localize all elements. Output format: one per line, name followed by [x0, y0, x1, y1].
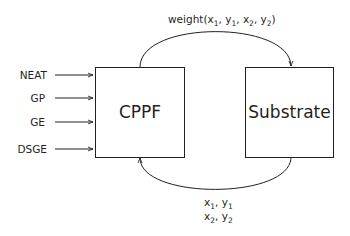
edge-cppf-to-substrate — [140, 32, 291, 67]
node-cppf: CPPF — [96, 68, 185, 158]
input-ge: GE — [30, 116, 93, 128]
input-label-dsge: DSGE — [17, 143, 47, 155]
cppf-label: CPPF — [119, 102, 161, 122]
substrate-label: Substrate — [248, 102, 330, 122]
input-label-gp: GP — [31, 92, 45, 104]
input-neat: NEAT — [20, 69, 93, 81]
edge-top-label: weight(x1, y1, x2, y2) — [168, 13, 276, 28]
edge-substrate-to-cppf — [140, 157, 291, 189]
edge-bottom-label-line1: x1, y1 — [204, 196, 233, 211]
input-dsge: DSGE — [17, 143, 93, 155]
input-label-neat: NEAT — [20, 69, 48, 81]
node-substrate: Substrate — [246, 68, 334, 158]
hyperneat-diagram: NEAT GP GE DSGE CPPF Substrate weight(x1… — [0, 0, 350, 236]
edge-bottom-label-line2: x2, y2 — [204, 210, 233, 225]
input-label-ge: GE — [30, 116, 45, 128]
input-gp: GP — [31, 92, 93, 104]
